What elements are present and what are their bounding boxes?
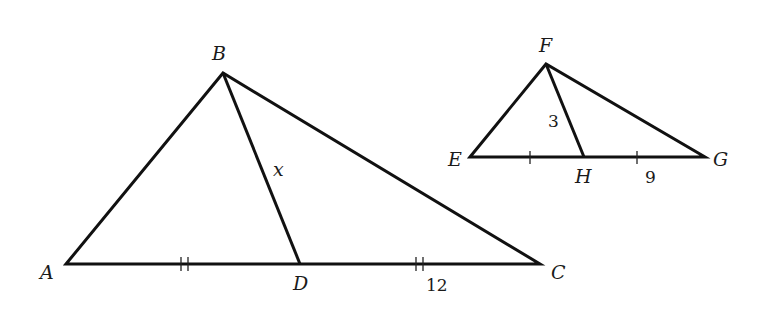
segment-label-dc: 12	[426, 275, 448, 295]
vertex-label-a: A	[38, 261, 54, 283]
vertex-label-e: E	[447, 148, 462, 170]
segment-label-bd: x	[273, 158, 284, 180]
segment-bd	[223, 73, 300, 264]
vertex-label-b: B	[211, 42, 226, 64]
triangle-abc: A B C D x 12	[38, 42, 566, 295]
triangle-efg: E F G H 3 9	[447, 34, 728, 187]
segment-label-hg: 9	[645, 167, 656, 187]
triangle-efg-outline	[470, 64, 705, 157]
triangle-abc-outline	[66, 73, 540, 264]
geometry-figure: A B C D x 12 E F G H 3 9	[0, 0, 765, 309]
vertex-label-h: H	[574, 165, 592, 187]
vertex-label-f: F	[538, 34, 553, 56]
vertex-label-c: C	[551, 261, 566, 283]
segment-label-fh: 3	[548, 111, 559, 131]
vertex-label-g: G	[713, 148, 728, 170]
vertex-label-d: D	[292, 272, 308, 294]
